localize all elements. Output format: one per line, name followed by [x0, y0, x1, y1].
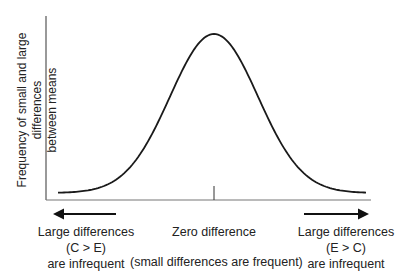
normal-distribution-curve [58, 34, 366, 193]
y-axis-label-line1: Frequency of small and large differences [15, 15, 45, 205]
center-annotation: Zero difference (small differences are f… [140, 224, 288, 270]
y-axis-label-line2: between means [45, 15, 60, 205]
left-annotation-line2: (C > E) [33, 240, 139, 256]
left-annotation-line3: are infrequent [33, 256, 139, 272]
center-annotation-line2: (small differences are frequent) [130, 254, 298, 270]
left-arrow-icon [53, 209, 116, 220]
right-arrow-icon [304, 209, 369, 220]
right-annotation-line2: (E > C) [296, 240, 396, 256]
right-annotation: Large differences (E > C) are infrequent [296, 224, 396, 272]
left-annotation-line1: Large differences [33, 224, 139, 240]
right-annotation-line1: Large differences [296, 224, 396, 240]
center-annotation-line1: Zero difference [140, 224, 288, 240]
right-annotation-line3: are infrequent [296, 256, 396, 272]
left-annotation: Large differences (C > E) are infrequent [33, 224, 139, 272]
y-axis-label: Frequency of small and large differences… [15, 15, 51, 205]
